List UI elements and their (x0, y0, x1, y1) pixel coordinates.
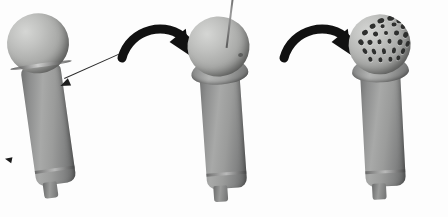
step-2-needle-inserted-tool: Needle inserted into the spherical head … (161, 2, 295, 217)
needle-entry-hole (238, 53, 243, 57)
perforation-hole (378, 57, 383, 63)
figure-canvas: Three-step assembly sequence of a spheri… (0, 0, 448, 217)
perforation-hole (368, 56, 374, 62)
perforation-hole (369, 23, 377, 30)
step-2-label: Needle inserted into the spherical head (161, 10, 162, 11)
perforation-hole (396, 18, 402, 23)
perforation-hole (372, 31, 378, 37)
handle-rim (206, 171, 246, 177)
handle-nub (213, 185, 228, 202)
handle-nub (372, 183, 387, 200)
perforation-hole (391, 22, 396, 26)
perforation-hole (397, 39, 403, 46)
perforation-hole (377, 17, 385, 24)
step-3-annotation: array of small dark holes across the dom… (323, 7, 324, 8)
step-2-annotation: thin needle protruding from the top of t… (161, 10, 162, 11)
perforation-hole (387, 39, 391, 44)
perforation-hole (357, 38, 365, 46)
perforation-hole (362, 48, 369, 55)
perforation-hole (381, 24, 385, 28)
perforation-hole (400, 24, 406, 30)
perforation-hole (384, 31, 388, 35)
tool-handle (199, 67, 247, 189)
handle-rim (365, 169, 405, 174)
step-3-perforated-sphere-tool: Spherical head perforated with many hole… (323, 1, 448, 217)
handle-nub (42, 181, 58, 199)
perforation-hole (400, 48, 406, 55)
perforation-hole (361, 29, 369, 36)
perforation-hole (387, 15, 395, 21)
perforation-hole (392, 47, 397, 53)
handle-rim (35, 165, 75, 174)
perforation-hole (396, 55, 401, 61)
step-1-plain-sphere-tool: Tool with smooth spherical head leader l… (0, 0, 126, 217)
perforation-hole (371, 48, 377, 55)
tool-handle (360, 65, 406, 187)
perforation-hole (402, 31, 408, 38)
perforation-hole (382, 48, 387, 54)
step-3-label: Spherical head perforated with many hole… (323, 7, 324, 8)
perforation-hole (367, 39, 374, 46)
perforation-hole (394, 30, 399, 35)
perforation-hole (388, 57, 392, 62)
perforation-hole (405, 40, 411, 47)
leader-line (64, 52, 122, 79)
base-marker-icon (4, 156, 12, 163)
perforation-hole (377, 39, 382, 45)
